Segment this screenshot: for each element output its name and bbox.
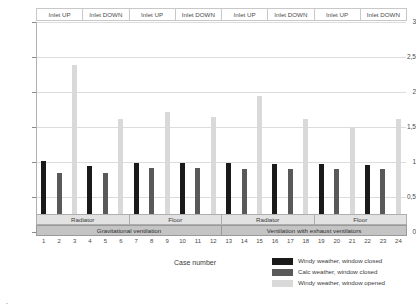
legend-label: Windy weather, window closed (298, 257, 382, 265)
inlet-band-cell: Inlet UP (314, 8, 361, 21)
legend-label: Calc weather, window closed (298, 268, 377, 276)
inlet-direction-band: Inlet UPInlet DOWNInlet UPInlet DOWNInle… (36, 8, 406, 21)
legend-swatch (272, 269, 293, 276)
case-number-label: 13 (221, 237, 236, 247)
inlet-band-cell: Inlet DOWN (175, 8, 222, 21)
ventilation-type-band: Gravitational ventilationVentilation wit… (36, 225, 406, 236)
heating-band-cell: Floor (129, 214, 223, 225)
legend-item: Windy weather, window opened (272, 278, 414, 288)
case-number-label: 19 (314, 237, 329, 247)
legend-item: Calc weather, window closed (272, 267, 414, 277)
ventilation-band-cell: Ventilation with exhaust ventilators (221, 225, 407, 236)
case-number-label: 16 (267, 237, 282, 247)
legend: Windy weather, window closedCalc weather… (272, 256, 414, 289)
case-number-label: 7 (129, 237, 144, 247)
case-number-label: 18 (298, 237, 313, 247)
ventilation-band-cell: Gravitational ventilation (36, 225, 222, 236)
inlet-band-cell: Inlet DOWN (82, 8, 129, 21)
case-number-label: 6 (113, 237, 128, 247)
inlet-band-cell: Inlet UP (129, 8, 176, 21)
case-number-label: 3 (67, 237, 82, 247)
case-number-label: 2 (51, 237, 66, 247)
inlet-band-cell: Inlet UP (221, 8, 268, 21)
case-number-label: 17 (283, 237, 298, 247)
case-number-label: 12 (206, 237, 221, 247)
case-number-label: 8 (144, 237, 159, 247)
case-number-label: 4 (82, 237, 97, 247)
case-number-label: 15 (252, 237, 267, 247)
case-number-label: 10 (175, 237, 190, 247)
x-axis-tick-labels: 123456789101112131415161718192021222324 (36, 237, 406, 247)
legend-item: Windy weather, window closed (272, 256, 414, 266)
case-number-label: 23 (375, 237, 390, 247)
bars-layer (36, 22, 406, 232)
inlet-band-cell: Inlet DOWN (267, 8, 314, 21)
case-number-label: 14 (236, 237, 251, 247)
heating-band-cell: Floor (314, 214, 408, 225)
caption-sliver: ̵̵̵̵̵̵̵̵̵̵ (6, 299, 410, 306)
bar-chart: Inlet UPInlet DOWNInlet UPInlet DOWNInle… (0, 0, 416, 306)
case-number-label: 1 (36, 237, 51, 247)
bar (72, 65, 77, 232)
case-number-label: 20 (329, 237, 344, 247)
case-number-label: 5 (98, 237, 113, 247)
x-axis-title: Case number (150, 259, 240, 266)
y-axis-title: εr [-] (0, 113, 34, 129)
bar (257, 96, 262, 232)
legend-label: Windy weather, window opened (298, 279, 385, 287)
legend-swatch (272, 280, 293, 287)
legend-swatch (272, 258, 293, 265)
inlet-band-cell: Inlet UP (36, 8, 83, 21)
heating-system-band: RadiatorFloorRadiatorFloor (36, 214, 406, 225)
case-number-label: 21 (344, 237, 359, 247)
case-number-label: 9 (159, 237, 174, 247)
heating-band-cell: Radiator (221, 214, 315, 225)
case-number-label: 24 (391, 237, 406, 247)
case-number-label: 11 (190, 237, 205, 247)
case-number-label: 22 (360, 237, 375, 247)
heating-band-cell: Radiator (36, 214, 130, 225)
